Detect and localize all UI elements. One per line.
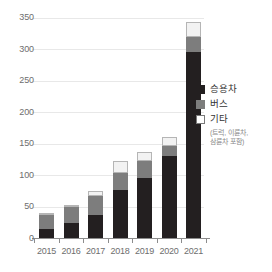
bar-2017[interactable] bbox=[88, 191, 103, 237]
other-swatch-icon bbox=[196, 115, 205, 124]
bar-segment-passenger-2018 bbox=[113, 190, 128, 238]
y-tick-label-300: 300 bbox=[0, 45, 34, 54]
bar-segment-bus-2020 bbox=[162, 146, 177, 156]
bar-segment-bus-2018 bbox=[113, 173, 128, 190]
bar-segment-bus-2019 bbox=[137, 161, 152, 177]
gridline-350 bbox=[32, 18, 204, 19]
y-tick-label-200: 200 bbox=[0, 108, 34, 117]
legend-label-passenger: 승용차 bbox=[210, 84, 237, 94]
bar-segment-passenger-2020 bbox=[162, 156, 177, 238]
bar-segment-other-2018 bbox=[113, 161, 128, 172]
x-tick-mark-2017 bbox=[83, 238, 84, 243]
bar-segment-passenger-2017 bbox=[88, 215, 103, 238]
x-tick-label-2021: 2021 bbox=[177, 246, 211, 256]
x-tick-mark-2016 bbox=[59, 238, 60, 243]
x-tick-mark-2018 bbox=[108, 238, 109, 243]
bar-segment-bus-2021 bbox=[186, 37, 201, 52]
x-tick-mark-2021 bbox=[181, 238, 182, 243]
bar-segment-passenger-2016 bbox=[64, 223, 79, 238]
legend-note-line2: 삼륜차 포함) bbox=[210, 138, 272, 147]
bar-2016[interactable] bbox=[64, 205, 79, 238]
bar-2015[interactable] bbox=[39, 213, 54, 238]
y-tick-label-350: 350 bbox=[0, 13, 34, 22]
legend-label-bus: 버스 bbox=[210, 99, 228, 109]
stacked-bar-chart: 350 300 250 200 150 100 50 0 20152016201… bbox=[0, 0, 272, 272]
legend-note-line1: (트럭, 이륜차, bbox=[210, 129, 272, 138]
gridline-250 bbox=[32, 81, 204, 82]
bar-segment-other-2020 bbox=[162, 137, 177, 145]
legend-item-other[interactable]: 기타 bbox=[196, 114, 272, 124]
y-tick-label-50: 50 bbox=[0, 202, 34, 211]
legend-item-passenger[interactable]: 승용차 bbox=[196, 84, 272, 94]
bar-2020[interactable] bbox=[162, 137, 177, 238]
bar-segment-other-2019 bbox=[137, 152, 152, 161]
bus-swatch-icon bbox=[196, 100, 205, 109]
gridline-200 bbox=[32, 112, 204, 113]
legend-item-bus[interactable]: 버스 bbox=[196, 99, 272, 109]
bar-segment-passenger-2019 bbox=[137, 178, 152, 238]
chart-legend: 승용차 버스 기타 (트럭, 이륜차, 삼륜차 포함) bbox=[196, 84, 272, 146]
y-tick-label-100: 100 bbox=[0, 171, 34, 180]
x-tick-mark-2019 bbox=[132, 238, 133, 243]
bar-segment-bus-2015 bbox=[39, 215, 54, 229]
bar-segment-bus-2017 bbox=[88, 196, 103, 215]
bar-segment-other-2021 bbox=[186, 22, 201, 37]
bar-segment-bus-2016 bbox=[64, 207, 79, 223]
x-tick-mark-2015 bbox=[34, 238, 35, 243]
gridline-150 bbox=[32, 144, 204, 145]
passenger-swatch-icon bbox=[196, 85, 205, 94]
bar-segment-passenger-2015 bbox=[39, 229, 54, 238]
x-tick-mark-2020 bbox=[157, 238, 158, 243]
y-tick-label-150: 150 bbox=[0, 139, 34, 148]
gridline-300 bbox=[32, 49, 204, 50]
bar-2019[interactable] bbox=[137, 152, 152, 238]
x-tick-mark-end bbox=[206, 238, 207, 243]
y-tick-label-250: 250 bbox=[0, 76, 34, 85]
bar-2018[interactable] bbox=[113, 161, 128, 238]
y-tick-label-0: 0 bbox=[0, 234, 34, 243]
legend-label-other: 기타 bbox=[210, 114, 228, 124]
